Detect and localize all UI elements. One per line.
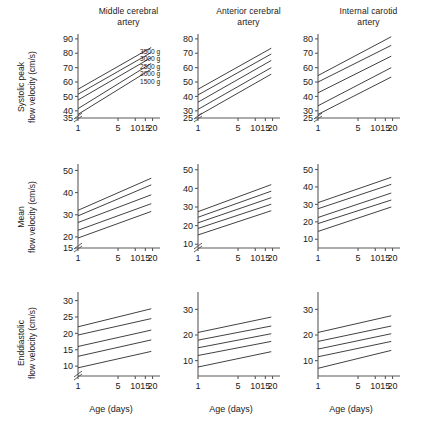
svg-text:10: 10 (250, 381, 260, 391)
series-line-2500-g (198, 198, 271, 223)
svg-text:60: 60 (303, 63, 313, 73)
series-line-3000-g (198, 326, 271, 340)
series-line-1500-g (198, 352, 271, 367)
svg-text:10: 10 (130, 123, 140, 133)
series-line-1500-g (318, 77, 391, 114)
series-line-3500-g (198, 317, 271, 332)
row-label-enddiastolic-line1: Enddiastolic (16, 288, 27, 398)
svg-text:30: 30 (63, 296, 73, 306)
svg-text:50: 50 (183, 77, 193, 87)
series-line-2500-g (78, 195, 151, 223)
svg-text:10: 10 (303, 234, 313, 244)
svg-text:50: 50 (63, 92, 73, 102)
series-line-2500-g (318, 56, 391, 93)
column-header-aca-line1: Anterior cerebral (216, 6, 281, 16)
series-line-3500-g (318, 316, 391, 333)
panel-systolic-mca: 3540506070809015101520 (48, 30, 160, 142)
series-line-3000-g (198, 191, 271, 217)
svg-text:20: 20 (388, 123, 398, 133)
legend-item-1500g: 1500 g (140, 78, 160, 85)
svg-text:1: 1 (75, 381, 80, 391)
series-line-1500-g (198, 74, 271, 116)
svg-text:1: 1 (195, 381, 200, 391)
row-label-mean: Mean flow velocity (cm/s) (16, 162, 37, 272)
svg-text:10: 10 (250, 253, 260, 263)
svg-text:40: 40 (183, 92, 193, 102)
panel-mean-aca: 102030405015101520 (168, 160, 280, 272)
svg-text:20: 20 (148, 253, 158, 263)
series-line-1500-g (318, 207, 391, 231)
panel-enddiastolic-mca: 101520253015101520 (48, 288, 160, 400)
svg-text:1: 1 (315, 381, 320, 391)
series-line-2000-g (198, 341, 271, 355)
svg-text:40: 40 (63, 106, 73, 116)
svg-text:10: 10 (130, 381, 140, 391)
svg-text:50: 50 (63, 166, 73, 176)
svg-text:10: 10 (250, 123, 260, 133)
series-line-2500-g (198, 60, 271, 102)
svg-text:5: 5 (356, 381, 361, 391)
svg-text:40: 40 (63, 188, 73, 198)
legend-item-2500g: 2500 g (140, 63, 160, 70)
svg-text:1: 1 (195, 123, 200, 133)
svg-text:30: 30 (183, 202, 193, 212)
column-header-mca-line1: Middle cerebral (99, 6, 159, 16)
svg-text:20: 20 (183, 221, 193, 231)
svg-text:25: 25 (63, 312, 73, 322)
svg-text:30: 30 (303, 305, 313, 315)
svg-text:10: 10 (370, 381, 380, 391)
svg-text:90: 90 (63, 34, 73, 44)
svg-text:50: 50 (303, 77, 313, 87)
series-line-3500-g (78, 178, 151, 210)
svg-text:1: 1 (75, 123, 80, 133)
legend-item-3000g: 3000 g (140, 55, 160, 62)
series-line-1500-g (78, 211, 151, 238)
row-label-mean-line1: Mean (16, 162, 27, 272)
series-line-1500-g (198, 211, 271, 235)
series-line-2000-g (318, 68, 391, 106)
svg-text:20: 20 (303, 330, 313, 340)
svg-text:20: 20 (388, 253, 398, 263)
svg-text:20: 20 (63, 329, 73, 339)
svg-text:1: 1 (315, 253, 320, 263)
series-line-3000-g (318, 326, 391, 341)
svg-text:15: 15 (63, 345, 73, 355)
svg-text:20: 20 (268, 253, 278, 263)
panel-enddiastolic-aca: 10203015101520 (168, 288, 280, 400)
xaxis-title-ica: Age (days) (296, 404, 406, 414)
svg-text:20: 20 (303, 217, 313, 227)
svg-text:40: 40 (303, 182, 313, 192)
column-header-mca-line2: artery (117, 17, 139, 27)
svg-text:5: 5 (236, 123, 241, 133)
series-line-3500-g (198, 48, 271, 89)
xaxis-title-aca: Age (days) (176, 404, 286, 414)
svg-text:1: 1 (195, 253, 200, 263)
svg-text:70: 70 (183, 48, 193, 58)
svg-text:5: 5 (116, 381, 121, 391)
svg-text:30: 30 (183, 106, 193, 116)
svg-text:30: 30 (183, 305, 193, 315)
svg-text:5: 5 (116, 123, 121, 133)
series-line-1500-g (318, 350, 391, 368)
svg-text:50: 50 (183, 165, 193, 175)
svg-text:5: 5 (116, 253, 121, 263)
svg-text:20: 20 (183, 330, 193, 340)
series-line-2500-g (198, 334, 271, 348)
column-header-aca-line2: artery (237, 17, 259, 27)
row-label-systolic-line1: Systolic peak (16, 22, 27, 152)
column-header-mca: Middle cerebral artery (76, 6, 181, 27)
panel-systolic-aca: 2530405060708015101520 (168, 30, 280, 142)
svg-text:10: 10 (183, 356, 193, 366)
svg-text:10: 10 (63, 361, 73, 371)
svg-text:40: 40 (183, 184, 193, 194)
panel-enddiastolic-ica: 10203015101520 (288, 288, 400, 400)
svg-text:30: 30 (303, 106, 313, 116)
row-label-mean-line2: flow velocity (cm/s) (27, 162, 38, 272)
svg-text:1: 1 (75, 253, 80, 263)
panel-mean-ica: 102030405015101520 (288, 160, 400, 272)
svg-text:70: 70 (63, 63, 73, 73)
figure-panel-grid: Middle cerebral artery Anterior cerebral… (0, 0, 433, 431)
svg-text:80: 80 (183, 34, 193, 44)
svg-text:30: 30 (63, 210, 73, 220)
svg-text:10: 10 (370, 123, 380, 133)
